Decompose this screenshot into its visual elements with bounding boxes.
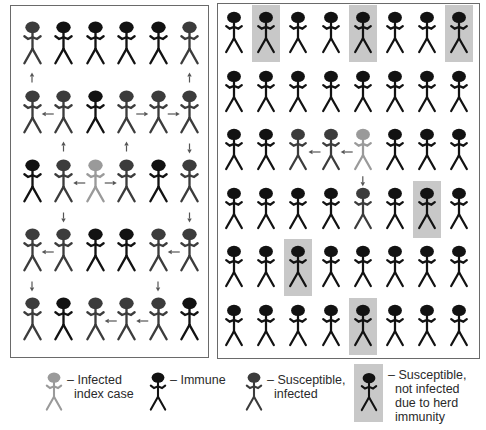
immune-person-icon bbox=[253, 127, 279, 173]
index-person-icon bbox=[82, 158, 109, 205]
index-person-icon bbox=[350, 127, 376, 173]
immune-person-icon bbox=[145, 20, 172, 67]
immune-person-icon bbox=[318, 10, 344, 56]
immune-person-icon bbox=[382, 303, 408, 349]
immune-person-icon bbox=[253, 10, 279, 56]
immune-person-icon bbox=[145, 158, 172, 205]
immune-person-icon bbox=[446, 186, 472, 232]
infected-person-icon bbox=[50, 89, 77, 136]
infected-person-icon bbox=[285, 127, 311, 173]
immune-person-icon bbox=[350, 244, 376, 290]
immune-person-icon bbox=[113, 20, 140, 67]
infected-person-icon bbox=[145, 296, 172, 343]
infected-person-icon bbox=[82, 296, 109, 343]
immune-person-icon bbox=[253, 69, 279, 115]
legend-label-index-case: – Infected index case bbox=[67, 373, 134, 401]
immune-person-icon bbox=[446, 10, 472, 56]
infected-person-icon bbox=[113, 296, 140, 343]
spread-arrow-icon bbox=[218, 4, 219, 5]
immune-person-icon bbox=[318, 303, 344, 349]
immune-person-icon bbox=[221, 10, 247, 56]
immune-person-icon bbox=[382, 186, 408, 232]
immune-person-icon bbox=[285, 69, 311, 115]
immune-person-icon bbox=[382, 10, 408, 56]
immune-person-icon bbox=[350, 10, 376, 56]
right-panel-herd-immunity bbox=[217, 3, 480, 359]
immune-person-icon bbox=[446, 244, 472, 290]
immune-person-icon bbox=[82, 20, 109, 67]
immune-person-icon bbox=[414, 69, 440, 115]
infected-person-icon bbox=[50, 227, 77, 274]
infected-person-icon bbox=[19, 296, 46, 343]
immune-person-icon bbox=[446, 303, 472, 349]
immune-person-icon bbox=[146, 370, 170, 414]
immune-person-icon bbox=[446, 127, 472, 173]
immune-person-icon bbox=[50, 296, 77, 343]
infected-person-icon bbox=[176, 20, 203, 67]
infected-person-icon bbox=[176, 227, 203, 274]
immune-person-icon bbox=[50, 20, 77, 67]
legend-label-immune: – Immune bbox=[170, 373, 226, 387]
immune-person-icon bbox=[221, 69, 247, 115]
infected-person-icon bbox=[19, 89, 46, 136]
infected-person-icon bbox=[19, 20, 46, 67]
infected-person-icon bbox=[113, 158, 140, 205]
immune-person-icon bbox=[318, 69, 344, 115]
spread-arrow-icon bbox=[11, 6, 12, 7]
immune-person-icon bbox=[176, 296, 203, 343]
infected-person-icon bbox=[242, 370, 266, 414]
immune-person-icon bbox=[285, 10, 311, 56]
immune-person-icon bbox=[253, 186, 279, 232]
immune-person-icon bbox=[414, 10, 440, 56]
immune-person-icon bbox=[285, 303, 311, 349]
infected-person-icon bbox=[145, 89, 172, 136]
infected-person-icon bbox=[318, 127, 344, 173]
index-person-icon bbox=[42, 370, 66, 414]
infected-person-icon bbox=[176, 89, 203, 136]
legend-label-susceptible-not-infected: – Susceptible, not infected due to herd … bbox=[388, 368, 467, 424]
infected-person-icon bbox=[145, 227, 172, 274]
immune-person-icon bbox=[221, 303, 247, 349]
immune-person-icon bbox=[414, 244, 440, 290]
immune-person-icon bbox=[350, 303, 376, 349]
immune-person-icon bbox=[19, 158, 46, 205]
immune-person-icon bbox=[318, 244, 344, 290]
left-panel-no-herd-immunity bbox=[10, 5, 209, 358]
infected-person-icon bbox=[176, 158, 203, 205]
immune-person-icon bbox=[285, 186, 311, 232]
immune-person-icon bbox=[318, 186, 344, 232]
immune-person-icon bbox=[253, 244, 279, 290]
immune-person-icon bbox=[414, 303, 440, 349]
immune-person-icon bbox=[414, 186, 440, 232]
immune-person-icon bbox=[82, 227, 109, 274]
immune-person-icon bbox=[382, 244, 408, 290]
infected-person-icon bbox=[350, 186, 376, 232]
infected-person-icon bbox=[113, 89, 140, 136]
immune-person-icon bbox=[221, 244, 247, 290]
legend-label-susceptible-infected: – Susceptible, infected bbox=[267, 373, 346, 401]
immune-person-icon bbox=[414, 127, 440, 173]
immune-person-icon bbox=[221, 186, 247, 232]
immune-person-icon bbox=[82, 89, 109, 136]
immune-person-icon bbox=[253, 303, 279, 349]
infected-person-icon bbox=[19, 227, 46, 274]
immune-person-icon bbox=[382, 127, 408, 173]
immune-person-icon bbox=[446, 69, 472, 115]
immune-person-icon bbox=[113, 227, 140, 274]
immune-person-icon bbox=[285, 244, 311, 290]
immune-person-icon bbox=[357, 371, 381, 414]
immune-person-icon bbox=[382, 69, 408, 115]
immune-person-icon bbox=[221, 127, 247, 173]
immune-person-icon bbox=[350, 69, 376, 115]
infected-person-icon bbox=[50, 158, 77, 205]
